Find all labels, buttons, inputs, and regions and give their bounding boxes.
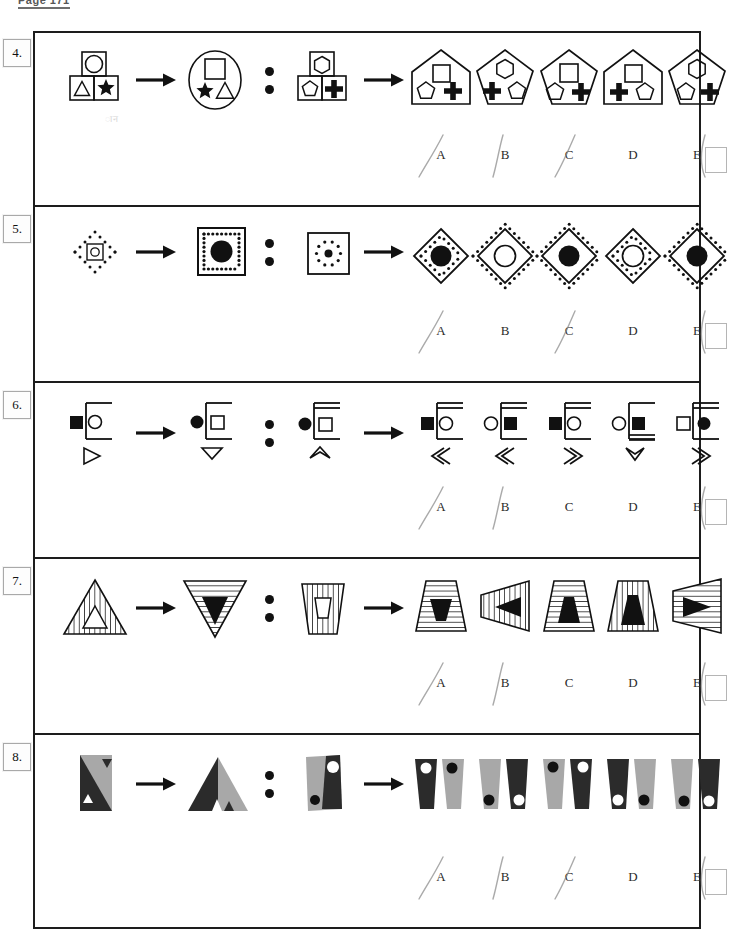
scan-smudge: ान bbox=[105, 112, 119, 125]
option-label-b[interactable]: B bbox=[473, 869, 537, 885]
option-a[interactable] bbox=[409, 751, 473, 817]
option-a[interactable] bbox=[409, 399, 473, 469]
analogy-colon-icon bbox=[252, 239, 286, 266]
stimulus-figure-a bbox=[58, 48, 132, 112]
page-header: Page 171 bbox=[18, 0, 70, 9]
question-number: 4. bbox=[3, 39, 31, 67]
option-label-d[interactable]: D bbox=[601, 147, 665, 163]
option-c[interactable] bbox=[537, 47, 601, 109]
answer-checkbox[interactable] bbox=[705, 499, 727, 525]
option-b[interactable] bbox=[473, 751, 537, 817]
option-label-b[interactable]: B bbox=[473, 675, 537, 691]
answer-checkbox[interactable] bbox=[705, 675, 727, 701]
option-label-b[interactable]: B bbox=[473, 499, 537, 515]
option-label-c[interactable]: C bbox=[537, 675, 601, 691]
option-d[interactable] bbox=[601, 575, 665, 637]
stimulus-figure-a bbox=[58, 751, 132, 817]
option-label-text: B bbox=[501, 675, 510, 690]
option-e[interactable] bbox=[665, 751, 729, 817]
option-label-d[interactable]: D bbox=[601, 675, 665, 691]
option-label-d[interactable]: D bbox=[601, 323, 665, 339]
option-c[interactable] bbox=[537, 399, 601, 469]
answer-checkbox[interactable] bbox=[705, 323, 727, 349]
option-e[interactable] bbox=[665, 47, 729, 109]
option-e[interactable] bbox=[665, 223, 729, 291]
option-label-text: E bbox=[693, 323, 701, 338]
stimulus-figure-b bbox=[178, 751, 252, 817]
option-label-text: B bbox=[501, 147, 510, 162]
option-label-text: C bbox=[565, 323, 574, 338]
option-label-text: D bbox=[628, 869, 637, 884]
option-label-c[interactable]: C bbox=[537, 323, 601, 339]
option-b[interactable] bbox=[473, 223, 537, 291]
option-label-text: A bbox=[436, 323, 445, 338]
stimulus-figure-b bbox=[178, 223, 252, 281]
stimulus-row bbox=[58, 751, 406, 817]
stimulus-figure-a bbox=[58, 576, 132, 640]
stimulus-figure-b bbox=[178, 47, 252, 113]
options-row bbox=[409, 47, 729, 109]
question-number: 7. bbox=[3, 567, 31, 595]
option-label-text: B bbox=[501, 869, 510, 884]
option-label-c[interactable]: C bbox=[537, 499, 601, 515]
option-label-text: A bbox=[436, 499, 445, 514]
option-label-text: C bbox=[565, 147, 574, 162]
stimulus-row bbox=[58, 399, 406, 467]
option-d[interactable] bbox=[601, 223, 665, 291]
stimulus-figure-c bbox=[286, 399, 360, 467]
option-label-a[interactable]: A bbox=[409, 869, 473, 885]
stimulus-row bbox=[58, 47, 406, 113]
options-row bbox=[409, 223, 729, 291]
analogy-colon-icon bbox=[252, 67, 286, 94]
option-a[interactable] bbox=[409, 575, 473, 637]
stimulus-row bbox=[58, 223, 406, 281]
option-b[interactable] bbox=[473, 47, 537, 109]
option-label-text: D bbox=[628, 323, 637, 338]
option-labels: A BC DE bbox=[409, 323, 729, 339]
arrow-icon bbox=[132, 422, 178, 444]
arrow-icon bbox=[360, 773, 406, 795]
option-label-text: A bbox=[436, 869, 445, 884]
option-label-a[interactable]: A bbox=[409, 323, 473, 339]
answer-checkbox[interactable] bbox=[705, 147, 727, 173]
option-label-text: A bbox=[436, 675, 445, 690]
option-d[interactable] bbox=[601, 399, 665, 469]
option-label-a[interactable]: A bbox=[409, 675, 473, 691]
option-label-a[interactable]: A bbox=[409, 147, 473, 163]
option-label-b[interactable]: B bbox=[473, 323, 537, 339]
option-b[interactable] bbox=[473, 575, 537, 637]
analogy-colon-icon bbox=[252, 595, 286, 622]
option-label-text: D bbox=[628, 147, 637, 162]
arrow-icon bbox=[132, 597, 178, 619]
option-b[interactable] bbox=[473, 399, 537, 469]
option-label-text: E bbox=[693, 675, 701, 690]
stimulus-figure-c bbox=[286, 223, 360, 281]
option-c[interactable] bbox=[537, 751, 601, 817]
option-label-text: A bbox=[436, 147, 445, 162]
answer-checkbox[interactable] bbox=[705, 869, 727, 895]
option-labels: A B C DE bbox=[409, 869, 729, 885]
option-label-c[interactable]: C bbox=[537, 869, 601, 885]
question-panel-8: A B C DE bbox=[33, 735, 701, 929]
option-label-b[interactable]: B bbox=[473, 147, 537, 163]
option-e[interactable] bbox=[665, 575, 729, 637]
analogy-colon-icon bbox=[252, 771, 286, 798]
option-c[interactable] bbox=[537, 223, 601, 291]
option-label-c[interactable]: C bbox=[537, 147, 601, 163]
option-label-d[interactable]: D bbox=[601, 499, 665, 515]
option-label-text: B bbox=[501, 499, 510, 514]
option-label-text: D bbox=[628, 499, 637, 514]
option-c[interactable] bbox=[537, 575, 601, 637]
option-label-a[interactable]: A bbox=[409, 499, 473, 515]
option-d[interactable] bbox=[601, 751, 665, 817]
option-d[interactable] bbox=[601, 47, 665, 109]
arrow-icon bbox=[360, 422, 406, 444]
option-a[interactable] bbox=[409, 47, 473, 109]
arrow-icon bbox=[360, 241, 406, 263]
option-e[interactable] bbox=[665, 399, 729, 469]
option-a[interactable] bbox=[409, 223, 473, 291]
arrow-icon bbox=[132, 241, 178, 263]
question-number: 8. bbox=[3, 743, 31, 771]
option-label-d[interactable]: D bbox=[601, 869, 665, 885]
stimulus-figure-a bbox=[58, 399, 132, 467]
